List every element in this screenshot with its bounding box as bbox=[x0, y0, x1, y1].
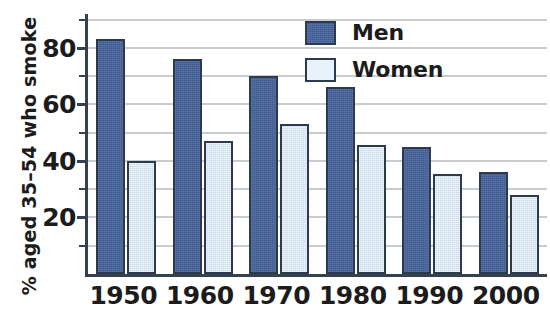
legend-label-women: Women bbox=[352, 57, 443, 82]
y-axis-major-tick bbox=[77, 47, 88, 50]
bar-women-1970 bbox=[280, 124, 309, 274]
y-axis-major-tick bbox=[77, 103, 88, 106]
y-axis-major-tick bbox=[77, 160, 88, 163]
y-axis-tick-labels: 20406080 bbox=[24, 0, 76, 326]
x-axis-tick-labels: 195019601970198019902000 bbox=[85, 281, 547, 323]
bar-men-1990 bbox=[402, 147, 431, 274]
y-axis-minor-tick bbox=[79, 245, 88, 247]
bar-women-1980 bbox=[357, 145, 386, 274]
bar-women-1990 bbox=[433, 174, 462, 274]
chart-legend: Men Women bbox=[305, 14, 465, 88]
legend-item-women: Women bbox=[305, 51, 465, 88]
x-axis-tick-label: 1960 bbox=[166, 281, 234, 310]
bar-women-1960 bbox=[204, 141, 233, 274]
x-axis-tick-label: 1950 bbox=[89, 281, 157, 310]
x-axis-tick-label: 2000 bbox=[472, 281, 540, 310]
legend-item-men: Men bbox=[305, 14, 465, 51]
x-axis-tick-label: 1970 bbox=[242, 281, 310, 310]
y-axis-major-tick bbox=[77, 216, 88, 219]
y-axis-tick-label: 60 bbox=[30, 90, 76, 119]
y-axis-minor-tick bbox=[79, 188, 88, 190]
bar-group bbox=[471, 14, 548, 274]
bar-women-2000 bbox=[510, 195, 539, 274]
y-axis-tick-label: 20 bbox=[30, 203, 76, 232]
bar-men-2000 bbox=[479, 172, 508, 274]
bar-men-1960 bbox=[173, 59, 202, 274]
bar-men-1970 bbox=[249, 76, 278, 274]
y-axis-tick-label: 80 bbox=[30, 33, 76, 62]
legend-label-men: Men bbox=[352, 20, 404, 45]
bar-men-1950 bbox=[96, 39, 125, 274]
legend-swatch-men bbox=[305, 21, 336, 45]
smoking-prevalence-bar-chart: % aged 35–54 who smoke 20406080 19501960… bbox=[0, 0, 550, 326]
bar-group bbox=[165, 14, 242, 274]
y-axis-minor-tick bbox=[79, 19, 88, 21]
bar-group bbox=[88, 14, 165, 274]
legend-swatch-women bbox=[305, 58, 336, 82]
y-axis-minor-tick bbox=[79, 75, 88, 77]
bar-men-1980 bbox=[326, 87, 355, 274]
bar-women-1950 bbox=[127, 161, 156, 274]
x-axis-tick-label: 1990 bbox=[395, 281, 463, 310]
y-axis-minor-tick bbox=[79, 132, 88, 134]
y-axis-tick-label: 40 bbox=[30, 146, 76, 175]
x-axis-tick-label: 1980 bbox=[319, 281, 387, 310]
